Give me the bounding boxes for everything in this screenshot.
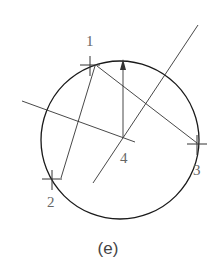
point-label-4: 4: [120, 150, 128, 166]
point-label-2: 2: [47, 194, 55, 210]
circle: [41, 61, 199, 219]
point-label-1: 1: [86, 33, 94, 49]
chord-1-3: [97, 66, 197, 143]
figure-caption: (e): [98, 239, 119, 258]
bisector-line-b: [93, 25, 198, 183]
point-label-3: 3: [193, 162, 201, 178]
circle-center-construction-diagram: 1 2 3 4 (e): [0, 0, 217, 273]
